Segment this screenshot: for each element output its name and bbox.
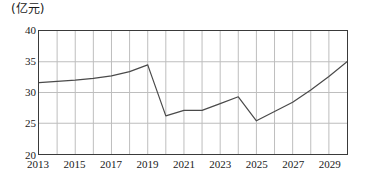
x-axis-tick-label: 2019 (136, 158, 158, 171)
x-axis-tick-label: 2015 (63, 158, 85, 171)
x-axis-tick-label: 2029 (319, 158, 341, 171)
y-axis-tick-label: 40 (2, 25, 36, 36)
series-polyline (39, 62, 347, 121)
x-axis-tick-label: 2021 (173, 158, 195, 171)
data-series-line (39, 31, 347, 154)
x-axis-tick-label: 2023 (209, 158, 231, 171)
x-axis-tick-label: 2025 (246, 158, 268, 171)
x-axis-tick-labels: 201320152017201920212023202520272029 (0, 158, 365, 178)
y-axis-tick-labels: 2025303540 (0, 0, 36, 181)
x-axis-tick-label: 2013 (27, 158, 49, 171)
y-axis-tick-label: 25 (2, 118, 36, 129)
plot-area (38, 30, 348, 155)
y-axis-tick-label: 30 (2, 87, 36, 98)
line-chart: (亿元) 2025303540 201320152017201920212023… (0, 0, 365, 181)
x-axis-tick-label: 2027 (282, 158, 304, 171)
y-axis-tick-label: 35 (2, 56, 36, 67)
x-axis-tick-label: 2017 (100, 158, 122, 171)
